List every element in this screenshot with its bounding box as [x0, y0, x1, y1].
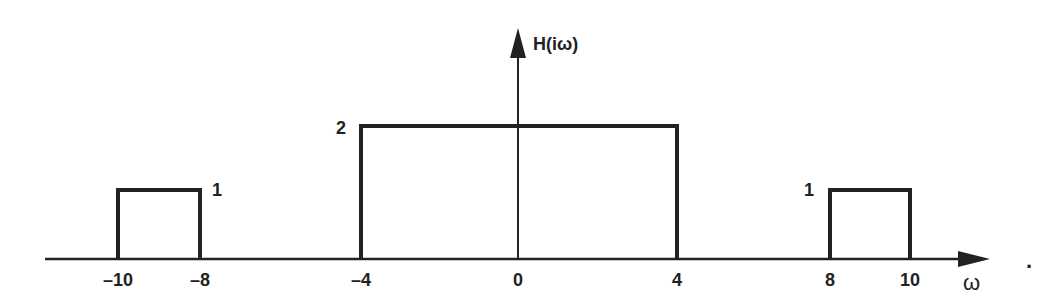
- y-axis-label: H(iω): [533, 34, 578, 54]
- tick-label: –8: [190, 270, 210, 290]
- height-label-right: 1: [804, 180, 814, 200]
- height-label-left: 1: [212, 180, 222, 200]
- tick-label: 10: [900, 270, 920, 290]
- tick-label: –4: [351, 270, 371, 290]
- pulse-right: [830, 190, 910, 259]
- tick-label: 0: [513, 270, 523, 290]
- height-label-center: 2: [336, 118, 346, 138]
- tick-label: –10: [103, 270, 133, 290]
- x-axis-label: ω: [963, 270, 980, 295]
- pulse-left: [118, 190, 200, 259]
- tick-label: 4: [672, 270, 682, 290]
- tick-label: 8: [825, 270, 835, 290]
- y-axis-arrow-icon: [510, 28, 526, 58]
- x-axis-arrow-icon: [958, 251, 990, 267]
- period-mark: .: [1026, 248, 1032, 273]
- frequency-response-diagram: H(iω) ω . 1 2 1 –10 –8 –4 0 4 8 10: [0, 0, 1040, 305]
